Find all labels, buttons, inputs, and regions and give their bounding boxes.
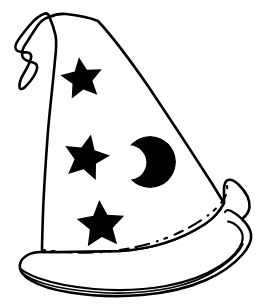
wizard-hat-artwork [0, 0, 267, 305]
illustration-canvas [0, 0, 267, 305]
crescent-moon-icon [124, 136, 176, 188]
